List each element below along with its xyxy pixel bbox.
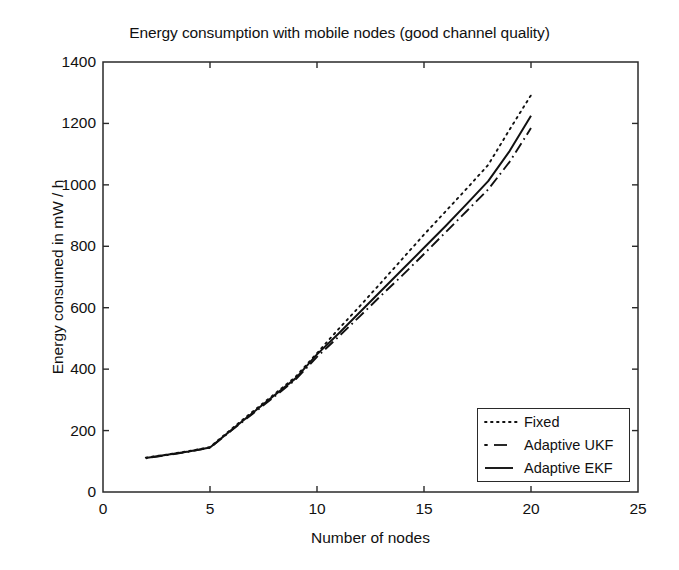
series-line-adaptive-ekf [146, 116, 531, 458]
legend-item-fixed: Fixed [483, 410, 559, 434]
legend-item-adaptive-ekf: Adaptive EKF [483, 456, 613, 480]
solid-line-sample [483, 461, 519, 475]
chart-figure: Energy consumption with mobile nodes (go… [0, 0, 679, 570]
plot-canvas [0, 0, 679, 570]
series-line-adaptive-ukf [146, 128, 531, 458]
series-line-fixed [146, 95, 531, 457]
dashdot-line-sample [483, 438, 519, 452]
chart-legend: Fixed Adaptive UKF Adaptive EKF [477, 408, 630, 482]
legend-label-adaptive-ukf: Adaptive UKF [524, 437, 613, 453]
dotted-line-sample [483, 415, 519, 429]
legend-label-adaptive-ekf: Adaptive EKF [524, 460, 613, 476]
legend-item-adaptive-ukf: Adaptive UKF [483, 433, 613, 457]
legend-label-fixed: Fixed [524, 414, 559, 430]
